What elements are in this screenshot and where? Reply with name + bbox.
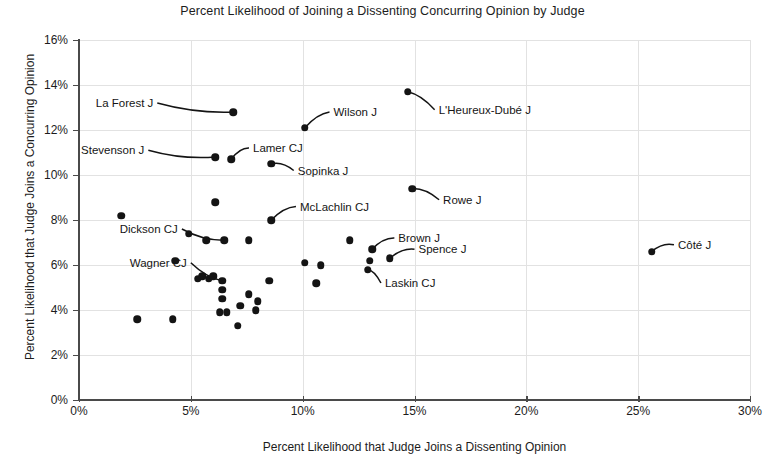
leader-line	[412, 188, 439, 199]
y-axis-tick	[73, 40, 79, 41]
data-point-labeled[interactable]	[268, 216, 276, 224]
x-axis-tick	[79, 396, 80, 402]
x-axis-tick-label: 0%	[70, 404, 87, 418]
data-point[interactable]	[218, 286, 226, 294]
data-point-label: Lamer CJ	[253, 142, 303, 154]
data-point-labeled[interactable]	[218, 277, 226, 285]
x-axis-title: Percent Likelihood that Judge Joins a Di…	[79, 440, 750, 454]
data-point-labeled[interactable]	[648, 248, 656, 256]
data-point-label: L'Heureux-Dubé J	[439, 104, 531, 116]
data-point-label: Wilson J	[334, 106, 377, 118]
gridline-vertical	[303, 40, 304, 400]
gridline-vertical	[638, 40, 639, 400]
y-axis-tick	[73, 355, 79, 356]
data-point-labeled[interactable]	[227, 156, 235, 164]
data-point[interactable]	[185, 230, 193, 238]
y-axis-tick-label: 10%	[28, 168, 68, 182]
plot-area	[79, 40, 750, 400]
y-axis-tick	[73, 85, 79, 86]
y-axis-tick-label: 12%	[28, 123, 68, 137]
data-point-labeled[interactable]	[221, 237, 229, 245]
data-point-label: Spence J	[419, 243, 467, 255]
data-point-labeled[interactable]	[364, 266, 372, 274]
chart-title: Percent Likelihood of Joining a Dissenti…	[0, 4, 765, 18]
x-axis-tick-label: 20%	[514, 404, 538, 418]
data-point-label: Rowe J	[443, 194, 481, 206]
data-point[interactable]	[209, 273, 217, 281]
data-point-labeled[interactable]	[212, 153, 220, 161]
x-axis-tick-label: 25%	[626, 404, 650, 418]
y-axis-tick-label: 14%	[28, 78, 68, 92]
data-point-labeled[interactable]	[386, 255, 394, 263]
gridline-vertical	[415, 40, 416, 400]
data-point[interactable]	[203, 237, 211, 245]
data-point-label: Laskin CJ	[385, 277, 436, 289]
data-point[interactable]	[317, 261, 325, 269]
x-axis-tick	[526, 396, 527, 402]
data-point[interactable]	[346, 237, 354, 245]
data-point[interactable]	[223, 309, 231, 317]
data-point[interactable]	[118, 212, 126, 220]
data-point[interactable]	[254, 297, 262, 305]
data-point-label: Stevenson J	[81, 144, 144, 156]
gridline-vertical	[191, 40, 192, 400]
data-point[interactable]	[366, 257, 374, 265]
data-point[interactable]	[245, 291, 253, 299]
data-point-label: Brown J	[398, 232, 440, 244]
y-axis-tick	[73, 265, 79, 266]
y-axis-tick-label: 8%	[28, 213, 68, 227]
data-point-label: Côté J	[678, 239, 711, 251]
data-point[interactable]	[301, 259, 309, 267]
gridline-vertical	[750, 40, 751, 400]
x-axis-tick-label: 5%	[182, 404, 199, 418]
y-axis-title: Percent Likelihood that Judge Joins a Co…	[23, 7, 37, 407]
y-axis-tick-label: 6%	[28, 258, 68, 272]
scatter-chart: Percent Likelihood of Joining a Dissenti…	[0, 0, 765, 458]
y-axis-tick	[73, 175, 79, 176]
data-point-label: McLachlin CJ	[300, 201, 369, 213]
data-point[interactable]	[265, 277, 273, 285]
data-point-labeled[interactable]	[230, 108, 238, 116]
data-point[interactable]	[234, 322, 242, 330]
data-point-label: Wagner CJ	[130, 257, 187, 269]
x-axis-tick-label: 30%	[738, 404, 762, 418]
data-point[interactable]	[169, 315, 177, 323]
leader-line	[148, 150, 215, 157]
leader-line	[408, 92, 435, 110]
x-axis-tick	[638, 396, 639, 402]
data-point[interactable]	[218, 295, 226, 303]
data-point[interactable]	[212, 198, 220, 206]
data-point-labeled[interactable]	[409, 185, 417, 193]
y-axis-tick-label: 4%	[28, 303, 68, 317]
x-axis-tick-label: 10%	[291, 404, 315, 418]
data-point-label: La Forest J	[96, 97, 154, 109]
data-point-labeled[interactable]	[368, 246, 376, 254]
gridline-vertical	[526, 40, 527, 400]
x-axis-tick	[750, 396, 751, 402]
y-axis-tick	[73, 130, 79, 131]
x-axis-tick	[415, 396, 416, 402]
data-point-labeled[interactable]	[268, 160, 276, 168]
data-point-label: Sopinka J	[298, 165, 349, 177]
data-point[interactable]	[252, 306, 260, 314]
x-axis-tick-label: 15%	[402, 404, 426, 418]
data-point[interactable]	[312, 279, 320, 287]
y-axis-tick-label: 16%	[28, 33, 68, 47]
data-point[interactable]	[133, 315, 141, 323]
data-point-labeled[interactable]	[301, 124, 309, 132]
x-axis-tick	[191, 396, 192, 402]
y-axis-tick	[73, 310, 79, 311]
data-point-label: Dickson CJ	[120, 223, 178, 235]
data-point[interactable]	[245, 237, 253, 245]
y-axis-tick-label: 0%	[28, 393, 68, 407]
data-point-labeled[interactable]	[404, 88, 412, 96]
x-axis-tick	[303, 396, 304, 402]
y-axis-tick	[73, 220, 79, 221]
leader-line	[157, 103, 233, 112]
y-axis-tick-label: 2%	[28, 348, 68, 362]
data-point[interactable]	[236, 302, 244, 310]
